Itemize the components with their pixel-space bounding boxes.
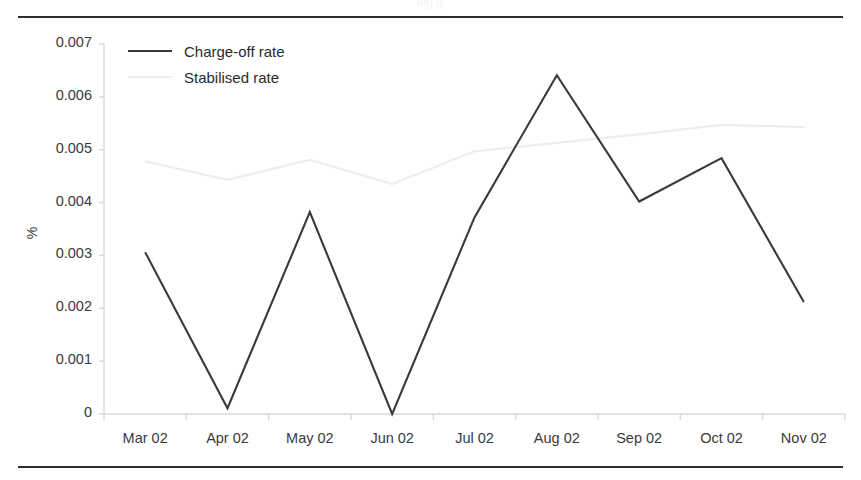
legend-label-charge-off-rate: Charge-off rate: [184, 43, 285, 60]
y-axis-tick-label: 0.003: [30, 245, 92, 261]
y-axis-title: %: [24, 227, 40, 239]
x-axis-tick-label: Jul 02: [431, 430, 519, 446]
x-axis-tick-label: Nov 02: [760, 430, 848, 446]
x-axis-tick-label: Oct 02: [678, 430, 766, 446]
y-axis-ticks: [99, 44, 104, 414]
y-axis-tick-label: 0.005: [30, 140, 92, 156]
x-axis-tick-label: Aug 02: [513, 430, 601, 446]
y-axis-tick-label: 0.002: [30, 298, 92, 314]
series-line-stabilised-rate: [145, 125, 804, 184]
chart-series-layer: [145, 75, 804, 414]
legend-swatch-charge-off-rate: [128, 50, 172, 52]
legend-label-stabilised-rate: Stabilised rate: [184, 69, 279, 86]
x-axis-tick-label: Apr 02: [184, 430, 272, 446]
legend-item-stabilised-rate[interactable]: Stabilised rate: [128, 64, 285, 90]
y-axis-tick-label: 0.007: [30, 34, 92, 50]
y-axis-tick-label: 0.006: [30, 87, 92, 103]
legend-swatch-stabilised-rate: [128, 76, 172, 78]
y-axis-tick-label: 0.001: [30, 351, 92, 367]
x-axis-tick-label: Jun 02: [348, 430, 436, 446]
x-axis-tick-label: Mar 02: [101, 430, 189, 446]
y-axis-tick-label: 0.004: [30, 193, 92, 209]
axis-lines: [104, 44, 845, 414]
y-axis-tick-label: 0: [30, 404, 92, 420]
figure-container: ing g % 0.0070.0060.0050.0040.0030.0020.…: [0, 0, 861, 480]
x-axis-ticks: [104, 414, 845, 420]
x-axis-tick-label: May 02: [266, 430, 354, 446]
x-axis-tick-label: Sep 02: [595, 430, 683, 446]
chart-legend: Charge-off rate Stabilised rate: [128, 38, 285, 90]
legend-item-charge-off-rate[interactable]: Charge-off rate: [128, 38, 285, 64]
